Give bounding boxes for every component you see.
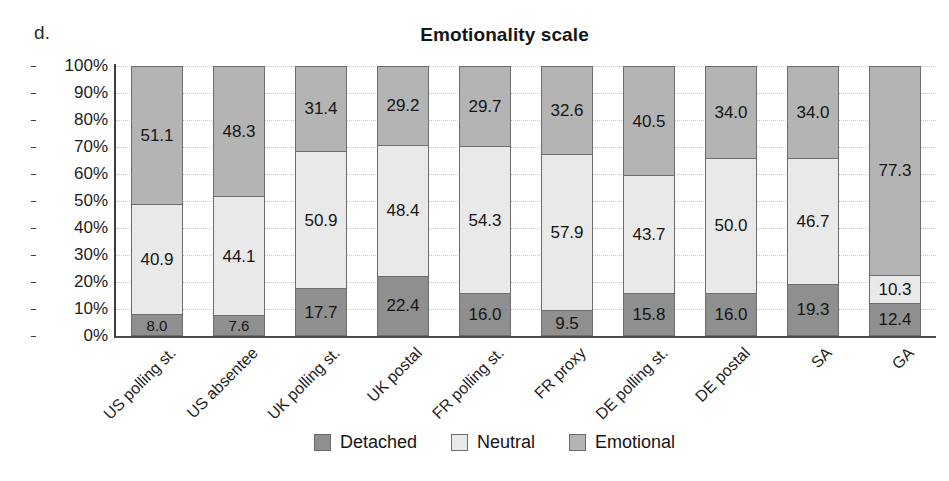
bar-value-label: 17.7 (304, 304, 337, 321)
bar-segment-neutral[interactable]: 50.0 (705, 158, 757, 293)
bar-segment-neutral[interactable]: 40.9 (131, 204, 183, 314)
bar-value-label: 57.9 (550, 224, 583, 241)
bar-value-label: 43.7 (632, 226, 665, 243)
bar-segment-emotional[interactable]: 29.2 (377, 66, 429, 145)
bar-segment-detached[interactable]: 7.6 (213, 315, 265, 336)
bar-stack: 17.750.931.4 (295, 66, 347, 336)
x-axis-spine (114, 336, 936, 338)
bar-segment-emotional[interactable]: 77.3 (869, 66, 921, 275)
bar-value-label: 51.1 (140, 127, 173, 144)
bar-value-label: 16.0 (468, 306, 501, 323)
bar-group[interactable]: 22.448.429.2 (377, 66, 429, 336)
bar-segment-emotional[interactable]: 48.3 (213, 66, 265, 196)
legend-item[interactable]: Emotional (569, 432, 675, 453)
bar-value-label: 50.9 (304, 212, 337, 229)
chart-title: Emotionality scale (0, 24, 949, 46)
bar-group[interactable]: 17.750.931.4 (295, 66, 347, 336)
y-tick-mark (31, 120, 36, 121)
chart-legend: DetachedNeutralEmotional (0, 432, 949, 453)
legend-label: Detached (340, 432, 417, 453)
y-tick-label: 40% (38, 218, 108, 238)
bar-value-label: 9.5 (555, 315, 579, 332)
legend-label: Emotional (595, 432, 675, 453)
bar-segment-detached[interactable]: 22.4 (377, 276, 429, 336)
bar-segment-neutral[interactable]: 57.9 (541, 154, 593, 310)
bar-segment-neutral[interactable]: 46.7 (787, 158, 839, 284)
bar-value-label: 40.9 (140, 251, 173, 268)
bar-group[interactable]: 7.644.148.3 (213, 66, 265, 336)
y-tick-mark (31, 309, 36, 310)
bar-value-label: 19.3 (796, 301, 829, 318)
bar-value-label: 46.7 (796, 213, 829, 230)
bar-segment-detached[interactable]: 19.3 (787, 284, 839, 336)
bar-value-label: 31.4 (304, 100, 337, 117)
bar-stack: 7.644.148.3 (213, 66, 265, 336)
bar-value-label: 50.0 (714, 217, 747, 234)
legend-item[interactable]: Detached (314, 432, 417, 453)
bar-segment-neutral[interactable]: 10.3 (869, 275, 921, 303)
bar-value-label: 8.0 (147, 318, 168, 333)
y-tick-mark (31, 228, 36, 229)
x-tick-label: DE postal (692, 344, 754, 406)
x-tick-label: US absentee (184, 344, 262, 422)
bar-value-label: 15.8 (632, 306, 665, 323)
bar-value-label: 22.4 (386, 297, 419, 314)
x-tick-label: FR proxy (531, 344, 590, 403)
bar-segment-detached[interactable]: 12.4 (869, 303, 921, 336)
legend-item[interactable]: Neutral (451, 432, 535, 453)
bar-value-label: 7.6 (229, 318, 250, 333)
bar-segment-detached[interactable]: 16.0 (459, 293, 511, 336)
y-tick-mark (31, 147, 36, 148)
bar-segment-emotional[interactable]: 34.0 (787, 66, 839, 158)
bar-value-label: 40.5 (632, 113, 665, 130)
bar-segment-emotional[interactable]: 32.6 (541, 66, 593, 154)
y-axis-tick-labels: 100%90%80%70%60%50%40%30%20%10%0% (36, 66, 108, 336)
bar-segment-neutral[interactable]: 48.4 (377, 145, 429, 276)
bar-value-label: 29.2 (386, 97, 419, 114)
bar-stack: 19.346.734.0 (787, 66, 839, 336)
bar-segment-emotional[interactable]: 29.7 (459, 66, 511, 146)
y-tick-label: 90% (38, 83, 108, 103)
bar-stack: 8.040.951.1 (131, 66, 183, 336)
bar-segment-detached[interactable]: 9.5 (541, 310, 593, 336)
bar-group[interactable]: 19.346.734.0 (787, 66, 839, 336)
y-tick-label: 10% (38, 299, 108, 319)
plot-area: 8.040.951.17.644.148.317.750.931.422.448… (116, 66, 936, 336)
bar-segment-detached[interactable]: 17.7 (295, 288, 347, 336)
bar-value-label: 34.0 (796, 104, 829, 121)
x-tick-label: US polling st. (100, 344, 179, 423)
bar-group[interactable]: 12.410.377.3 (869, 66, 921, 336)
bar-group[interactable]: 9.557.932.6 (541, 66, 593, 336)
bar-segment-emotional[interactable]: 51.1 (131, 66, 183, 204)
bar-segment-neutral[interactable]: 54.3 (459, 146, 511, 293)
legend-swatch-icon (569, 434, 586, 451)
y-tick-label: 20% (38, 272, 108, 292)
bar-stack: 16.050.034.0 (705, 66, 757, 336)
y-tick-mark (31, 336, 36, 337)
bar-segment-neutral[interactable]: 50.9 (295, 151, 347, 288)
bar-group[interactable]: 8.040.951.1 (131, 66, 183, 336)
bar-stack: 15.843.740.5 (623, 66, 675, 336)
bar-segment-detached[interactable]: 8.0 (131, 314, 183, 336)
bar-group[interactable]: 15.843.740.5 (623, 66, 675, 336)
bar-segment-neutral[interactable]: 44.1 (213, 196, 265, 315)
bar-segment-detached[interactable]: 15.8 (623, 293, 675, 336)
bar-group[interactable]: 16.054.329.7 (459, 66, 511, 336)
bar-value-label: 16.0 (714, 306, 747, 323)
bar-value-label: 29.7 (468, 98, 501, 115)
bar-segment-emotional[interactable]: 40.5 (623, 66, 675, 175)
y-tick-label: 0% (38, 326, 108, 346)
bar-segment-detached[interactable]: 16.0 (705, 293, 757, 336)
bar-value-label: 48.3 (222, 123, 255, 140)
legend-label: Neutral (477, 432, 535, 453)
bar-segment-neutral[interactable]: 43.7 (623, 175, 675, 293)
y-tick-label: 50% (38, 191, 108, 211)
bar-value-label: 54.3 (468, 212, 501, 229)
bar-stack: 9.557.932.6 (541, 66, 593, 336)
bar-segment-emotional[interactable]: 34.0 (705, 66, 757, 158)
bar-segment-emotional[interactable]: 31.4 (295, 66, 347, 151)
bar-group[interactable]: 16.050.034.0 (705, 66, 757, 336)
y-tick-mark (31, 93, 36, 94)
x-tick-label: FR polling st. (429, 344, 508, 423)
bar-value-label: 10.3 (878, 281, 911, 298)
